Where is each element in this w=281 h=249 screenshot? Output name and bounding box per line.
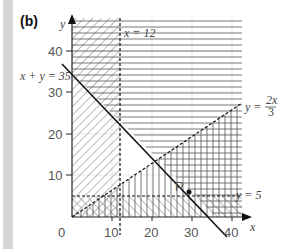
label-y-2x3-prefix: y = [244, 100, 261, 114]
origin-label: 0 [58, 225, 65, 240]
y-tick-20: 20 [48, 127, 62, 142]
x-tick-20: 20 [144, 225, 158, 240]
point-p [187, 190, 192, 195]
label-y-2x3-den: 3 [268, 105, 274, 119]
point-p-label: P [175, 179, 184, 194]
linear-programming-diagram: P 0 10 20 30 40 10 20 30 40 y x x = 12 x… [0, 0, 281, 249]
x-tick-40: 40 [224, 225, 238, 240]
label-x-12: x = 12 [123, 26, 155, 40]
label-y-5: y = 5 [235, 188, 261, 202]
x-tick-30: 30 [184, 225, 198, 240]
x-tick-10: 10 [104, 225, 118, 240]
y-axis-label: y [59, 17, 66, 31]
y-tick-30: 30 [48, 85, 62, 100]
x-axis-label: x [249, 220, 256, 234]
y-tick-40: 40 [48, 44, 62, 59]
y-tick-10: 10 [48, 168, 62, 183]
label-x-plus-y-35: x + y = 35 [19, 69, 71, 83]
